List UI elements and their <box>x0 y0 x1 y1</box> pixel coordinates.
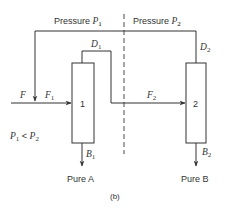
distillate-d1-stream-line <box>82 51 185 103</box>
feed-label-f2: F2 <box>146 90 157 102</box>
feed-label-f1: F1 <box>44 90 55 102</box>
bottoms-label-b2: B2 <box>202 147 212 159</box>
region-label-pressure-p2: Pressure P2 <box>133 16 181 28</box>
figure-caption: (b) <box>110 192 120 201</box>
product-label-pure-a: Pure A <box>67 174 94 184</box>
bottoms-label-b1: B1 <box>86 149 96 161</box>
recycle-stream-d2-line <box>35 31 196 101</box>
feed-label-f: F <box>19 90 26 100</box>
region-label-pressure-p1: Pressure P1 <box>54 16 102 28</box>
distillate-label-d2: D2 <box>199 42 211 54</box>
pressure-condition: P1 < P2 <box>9 131 39 143</box>
product-label-pure-b: Pure B <box>181 174 209 184</box>
pressure-swing-distillation-diagram: Pressure P1 Pressure P2 1 2 F F1 F2 D1 D… <box>0 0 227 208</box>
column-2-label: 2 <box>193 99 198 109</box>
column-1-label: 1 <box>80 99 85 109</box>
distillate-label-d1: D1 <box>90 39 102 51</box>
